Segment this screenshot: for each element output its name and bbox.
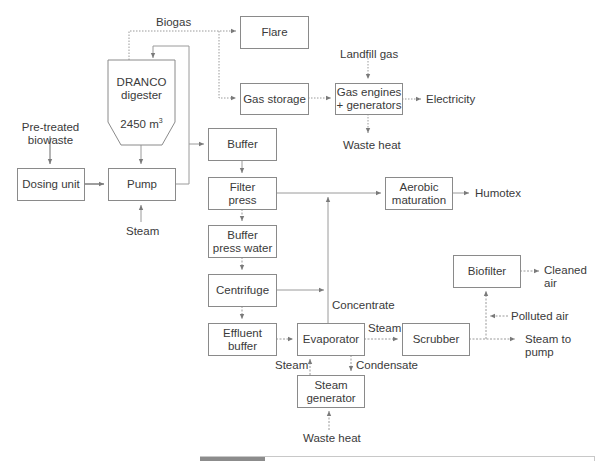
- steam-to-pump-line-2: pump: [525, 346, 571, 359]
- dosing-unit-box: Dosing unit: [17, 168, 85, 201]
- digester-volume-value: 2450 m: [120, 118, 158, 130]
- gas-engines-box: Gas engines + generators: [335, 83, 403, 115]
- digester-label-2: digester: [108, 89, 175, 102]
- aerobic-maturation-box: Aerobic maturation: [385, 177, 453, 210]
- cleaned-air-label: Cleaned air: [544, 264, 587, 290]
- biofilter-label: Biofilter: [468, 265, 506, 278]
- cleaned-air-line-1: Cleaned: [544, 264, 587, 277]
- centrifuge-box: Centrifuge: [208, 274, 277, 307]
- digester-volume-unit-sup: 3: [159, 117, 163, 124]
- pretreated-biowaste-label: Pre-treated biowaste: [17, 121, 84, 147]
- flare-label: Flare: [261, 26, 287, 39]
- centrifuge-label: Centrifuge: [216, 284, 269, 297]
- aerobic-maturation-label-2: maturation: [392, 194, 446, 207]
- effluent-buffer-box: Effluent buffer: [208, 323, 277, 356]
- pump-box: Pump: [108, 168, 176, 201]
- evaporator-label: Evaporator: [303, 333, 359, 346]
- electricity-label: Electricity: [426, 93, 475, 106]
- concentrate-label: Concentrate: [332, 299, 395, 312]
- digester-volume: 2450 m3: [108, 114, 175, 131]
- steam-pump-label: Steam: [126, 225, 159, 238]
- steam-generator-label-1: Steam: [314, 379, 347, 392]
- steam-evap-scrubber-label: Steam: [368, 322, 401, 335]
- filter-press-box: Filter press: [208, 177, 277, 210]
- polluted-air-label: Polluted air: [511, 310, 569, 323]
- humotex-label: Humotex: [475, 187, 521, 200]
- filter-press-label-2: press: [228, 194, 256, 207]
- page-footer-rule: [200, 456, 595, 461]
- digester-label-1: DRANCO: [108, 76, 175, 89]
- filter-press-label-1: Filter: [230, 181, 256, 194]
- footer-rule-accent: [200, 457, 265, 461]
- dosing-unit-label: Dosing unit: [22, 178, 80, 191]
- steam-gen-evap-label: Steam: [275, 359, 308, 372]
- gas-storage-box: Gas storage: [240, 83, 309, 115]
- gas-engines-label-2: + generators: [337, 99, 402, 112]
- steam-to-pump-line-1: Steam to: [525, 333, 571, 346]
- aerobic-maturation-label-1: Aerobic: [400, 181, 439, 194]
- biofilter-box: Biofilter: [453, 255, 521, 288]
- digester-box: DRANCO digester 2450 m3: [108, 76, 175, 131]
- steam-to-pump-label: Steam to pump: [525, 333, 571, 359]
- pretreated-line-1: Pre-treated: [17, 121, 84, 134]
- pretreated-line-2: biowaste: [17, 134, 84, 147]
- gas-storage-label: Gas storage: [243, 93, 306, 106]
- steam-generator-label-2: generator: [306, 392, 355, 405]
- buffer-press-water-box: Buffer press water: [208, 225, 277, 258]
- gas-engines-label-1: Gas engines: [337, 86, 402, 99]
- landfill-gas-label: Landfill gas: [340, 48, 398, 61]
- buffer-press-water-label-1: Buffer: [227, 229, 257, 242]
- evaporator-box: Evaporator: [297, 323, 365, 356]
- waste-heat-bottom-label: Waste heat: [303, 432, 361, 445]
- pump-label: Pump: [127, 178, 157, 191]
- cleaned-air-line-2: air: [544, 277, 587, 290]
- flare-box: Flare: [240, 16, 309, 49]
- waste-heat-top-label: Waste heat: [343, 139, 401, 152]
- buffer-label: Buffer: [227, 138, 257, 151]
- biogas-label: Biogas: [156, 16, 191, 29]
- steam-generator-box: Steam generator: [297, 375, 365, 408]
- buffer-box: Buffer: [208, 128, 277, 161]
- scrubber-label: Scrubber: [413, 333, 460, 346]
- scrubber-box: Scrubber: [402, 323, 470, 356]
- effluent-buffer-label-2: buffer: [228, 340, 257, 353]
- condensate-label: Condensate: [356, 359, 418, 372]
- effluent-buffer-label-1: Effluent: [223, 327, 262, 340]
- buffer-press-water-label-2: press water: [213, 242, 272, 255]
